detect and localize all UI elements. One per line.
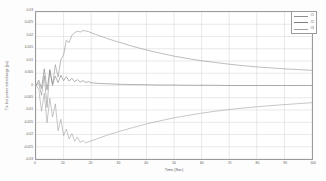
y-tick-label: -0.015 — [24, 121, 33, 124]
y-tick-label: -0.005 — [24, 96, 33, 99]
series-line-2 — [36, 69, 312, 90]
series-line-3 — [36, 86, 312, 143]
legend-label: #2 — [310, 21, 314, 24]
legend-color-swatch — [294, 22, 308, 23]
legend-color-swatch — [294, 16, 308, 17]
y-tick-label: 0.005 — [25, 71, 33, 74]
chart-legend[interactable]: #1#2#3 — [291, 11, 317, 34]
x-tick-label: 50 — [172, 162, 176, 165]
legend-item[interactable]: #3 — [294, 27, 314, 32]
y-tick-label: 0.015 — [25, 47, 33, 50]
x-tick-label: 0 — [34, 162, 36, 165]
x-tick-label: 20 — [89, 162, 93, 165]
x-tick-label: 10 — [61, 162, 65, 165]
x-tick-label: 80 — [256, 162, 260, 165]
x-axis-title: Time (Sec) — [35, 168, 313, 172]
x-tick-label: 60 — [200, 162, 204, 165]
y-tick-label: 0.025 — [25, 22, 33, 25]
x-tick-label: 40 — [144, 162, 148, 165]
x-tick-label: 70 — [228, 162, 232, 165]
y-tick-label: -0.02 — [25, 134, 33, 137]
legend-item[interactable]: #2 — [294, 20, 314, 25]
x-tick-label: 30 — [117, 162, 121, 165]
y-tick-label: -0.025 — [24, 146, 33, 149]
legend-label: #1 — [310, 14, 314, 17]
y-tick-label: 0.01 — [27, 59, 33, 62]
y-tick-label: 0.03 — [27, 9, 33, 12]
y-tick-label: 0 — [31, 84, 33, 87]
series-line-1 — [36, 31, 312, 108]
y-tick-label: -0.01 — [25, 109, 33, 112]
plot-area — [35, 11, 313, 160]
legend-label: #3 — [310, 27, 314, 30]
x-tick-label: 100 — [310, 162, 316, 165]
data-series-layer — [36, 12, 312, 159]
y-tick-label: 0.02 — [27, 34, 33, 37]
y-tick-label: -0.03 — [25, 158, 33, 161]
legend-color-swatch — [294, 29, 308, 30]
chart-figure: Tie line power interchange (pu) -0.03-0.… — [0, 0, 326, 181]
legend-item[interactable]: #1 — [294, 14, 314, 19]
x-tick-label: 90 — [283, 162, 287, 165]
y-axis-tick-labels: -0.03-0.025-0.02-0.015-0.01-0.00500.0050… — [0, 11, 33, 160]
